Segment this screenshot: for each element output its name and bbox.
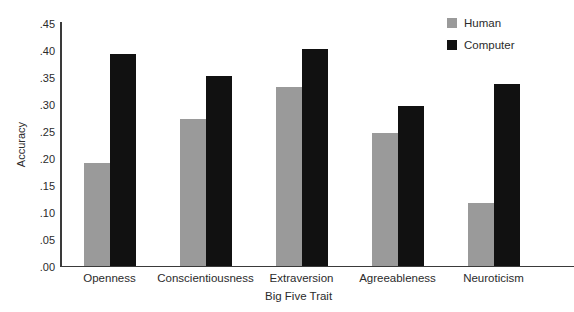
y-axis-tick-label: .15	[40, 180, 55, 191]
y-axis-tick-label: .20	[40, 153, 55, 164]
bar-human	[372, 133, 398, 266]
bar-group	[254, 22, 350, 266]
bar-group	[350, 22, 446, 266]
y-axis-tick-label: .00	[40, 262, 55, 273]
x-axis-tick-label: Conscientiousness	[157, 272, 254, 285]
bar-human	[468, 203, 494, 265]
bar-group	[62, 22, 158, 266]
y-axis-tick-label: .25	[40, 126, 55, 137]
y-axis-tick-label: .30	[40, 99, 55, 110]
bar-human	[84, 163, 110, 266]
bar-group	[446, 22, 542, 266]
x-axis-tick-label: Neuroticism	[463, 272, 524, 285]
x-axis-line	[60, 266, 574, 268]
bar-chart-figure: Human Computer Accuracy .45.40.35.30.25.…	[0, 0, 574, 312]
bar-computer	[494, 84, 520, 265]
bar-computer	[206, 76, 232, 265]
plot-area: .45.40.35.30.25.20.15.10.05.00	[60, 22, 542, 267]
bar-series-container	[62, 22, 542, 266]
bar-human	[276, 87, 302, 266]
x-axis-tick-label: Agreeableness	[359, 272, 436, 285]
y-axis-tick-label: .40	[40, 45, 55, 56]
x-axis-tick-label: Extraversion	[270, 272, 334, 285]
bar-computer	[302, 49, 328, 265]
x-axis-tick-label: Openness	[83, 272, 135, 285]
y-axis-tick-label: .05	[40, 234, 55, 245]
y-axis-title: Accuracy	[14, 22, 28, 267]
y-axis-tick-label: .45	[40, 18, 55, 29]
bar-computer	[398, 106, 424, 266]
x-axis-title: Big Five Trait	[265, 290, 332, 303]
y-axis-tick-label: .35	[40, 72, 55, 83]
y-axis-tick-label: .10	[40, 207, 55, 218]
bar-group	[158, 22, 254, 266]
bar-computer	[110, 54, 136, 265]
bar-human	[180, 119, 206, 265]
